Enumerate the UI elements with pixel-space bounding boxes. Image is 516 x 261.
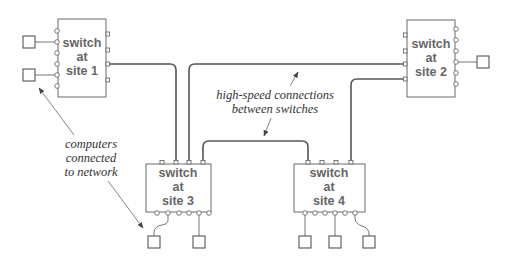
arrow-icon: [290, 72, 298, 86]
computer-icon: [193, 236, 205, 248]
annotation-line: to network: [64, 165, 118, 179]
link-site4-site2: [351, 79, 403, 160]
annotation-line: high-speed connections: [216, 88, 334, 102]
link-site3-site4: [203, 141, 308, 160]
network-diagram: switch at site 1 switch at site 2: [0, 0, 516, 261]
switch-label-line: at: [76, 50, 88, 64]
arrow-icon: [264, 118, 271, 136]
switch-label-line: site 4: [313, 194, 345, 208]
switch-site-4: switch at site 4: [294, 161, 365, 216]
switch-label-line: switch: [159, 166, 198, 180]
switch-label-line: switch: [63, 36, 102, 50]
switch-label-line: at: [172, 180, 184, 194]
computer-icon: [363, 236, 375, 248]
ports-right: [106, 32, 110, 82]
switch-label-line: site 3: [162, 194, 194, 208]
computer-icon: [477, 56, 489, 68]
switch-label-line: at: [425, 51, 437, 65]
switch-label-line: at: [323, 180, 335, 194]
ports-left: [404, 33, 408, 81]
computer-icon: [23, 69, 35, 81]
annotation-line: computers: [65, 137, 117, 151]
switch-label-line: site 2: [415, 65, 447, 79]
ports-top: [306, 161, 353, 165]
computer-icon: [23, 36, 35, 48]
switch-label-line: switch: [310, 166, 349, 180]
switch-site-2: switch at site 2: [404, 20, 459, 97]
annotation-line: connected: [66, 151, 117, 165]
switch-label-line: site 1: [66, 64, 98, 78]
computer-icon: [299, 236, 311, 248]
computer-icon: [148, 236, 160, 248]
arrow-icon: [108, 181, 143, 228]
annotation-high-speed: high-speed connections between switches: [216, 72, 334, 136]
link-site1-site3: [109, 64, 176, 160]
switch-label-line: switch: [412, 37, 451, 51]
switch-site-3: switch at site 3: [146, 161, 211, 216]
annotation-line: between switches: [232, 102, 319, 116]
annotation-computers: computers connected to network: [39, 88, 143, 228]
ports-top: [160, 161, 205, 165]
computer-icon: [329, 236, 341, 248]
switch-site-1: switch at site 1: [55, 19, 110, 97]
